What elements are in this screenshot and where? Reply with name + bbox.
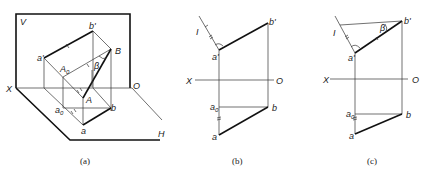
- line-I: [335, 16, 355, 53]
- label-a: a: [212, 132, 217, 142]
- label-A0: A0: [59, 64, 70, 75]
- line-a-prime-b-prime: [355, 21, 402, 53]
- caption-a: (a): [80, 156, 90, 166]
- label-O: O: [412, 75, 419, 85]
- label-X: X: [5, 84, 13, 94]
- line-ab: [355, 114, 402, 134]
- label-a0: a0: [346, 109, 355, 120]
- label-B: B: [115, 46, 121, 56]
- figure-c: I β b' a' X O a0 b a (c): [322, 16, 419, 166]
- projection-diagram: V X O H b' a' B A0 β A a0 a b (a): [0, 0, 433, 174]
- label-b: b: [272, 103, 277, 113]
- v-plane-frame: [16, 14, 130, 88]
- caption-b: (b): [232, 156, 243, 166]
- label-X: X: [322, 75, 330, 85]
- line-AB: [83, 49, 111, 98]
- line-a-prime-b-prime: [44, 31, 93, 58]
- label-b: b: [406, 110, 411, 120]
- label-a-prime: a': [348, 53, 355, 63]
- label-b-prime: b': [89, 21, 96, 31]
- label-b-prime: b': [269, 17, 276, 27]
- line-a-prime-b-prime: [219, 23, 268, 50]
- label-X: X: [185, 76, 193, 86]
- caption-c: (c): [367, 156, 377, 166]
- label-a0: a0: [210, 102, 219, 113]
- label-I: I: [333, 28, 336, 38]
- figure-b: I b' a' X O a0 b a (b): [185, 16, 283, 166]
- line-ab: [83, 108, 111, 125]
- label-O: O: [276, 76, 283, 86]
- label-a-prime: a': [212, 52, 219, 62]
- label-H: H: [158, 129, 165, 139]
- h-plane-edge: [132, 88, 162, 120]
- label-b-prime: b': [404, 16, 411, 26]
- label-beta: β: [379, 23, 385, 33]
- label-beta: β: [93, 61, 99, 71]
- label-a: a: [81, 126, 86, 136]
- label-b: b: [111, 103, 116, 113]
- label-a: a: [349, 131, 354, 141]
- figure-a: V X O H b' a' B A0 β A a0 a b (a): [5, 14, 165, 166]
- label-A: A: [85, 95, 92, 105]
- line-ab: [219, 107, 268, 135]
- label-a-prime: a': [37, 53, 44, 63]
- line-I: [199, 16, 219, 50]
- label-O: O: [133, 81, 140, 91]
- label-V: V: [20, 17, 27, 27]
- label-I: I: [196, 27, 199, 37]
